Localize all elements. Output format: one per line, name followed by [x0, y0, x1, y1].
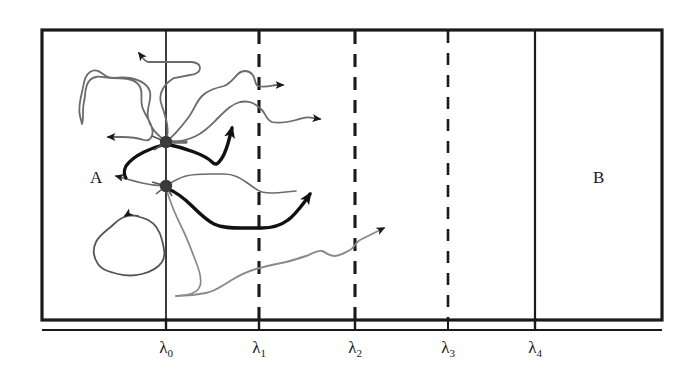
axis-label-lambda2: λ2 [348, 338, 362, 359]
milestoning-diagram [0, 0, 694, 372]
lambda-sub-3: 3 [449, 347, 455, 359]
lambda-glyph-3: λ [441, 338, 449, 357]
outer-frame [42, 30, 662, 320]
axis-label-lambda4: λ4 [528, 338, 542, 359]
lambda-glyph-1: λ [252, 338, 260, 357]
node-upper [160, 136, 172, 148]
lambda-sub-4: 4 [536, 347, 542, 359]
region-label-a: A [90, 168, 102, 188]
node-lower [160, 180, 172, 192]
lambda-glyph-2: λ [348, 338, 356, 357]
axis-label-lambda1: λ1 [252, 338, 266, 359]
lambda-glyph-0: λ [159, 338, 167, 357]
axis-label-lambda0: λ0 [159, 338, 173, 359]
figure-canvas: A B λ0 λ1 λ2 λ3 λ4 [0, 0, 694, 372]
lambda-sub-1: 1 [260, 347, 266, 359]
lambda-glyph-4: λ [528, 338, 536, 357]
lambda-sub-2: 2 [356, 347, 362, 359]
lambda-sub-0: 0 [167, 347, 173, 359]
region-label-b: B [593, 168, 604, 188]
axis-label-lambda3: λ3 [441, 338, 455, 359]
